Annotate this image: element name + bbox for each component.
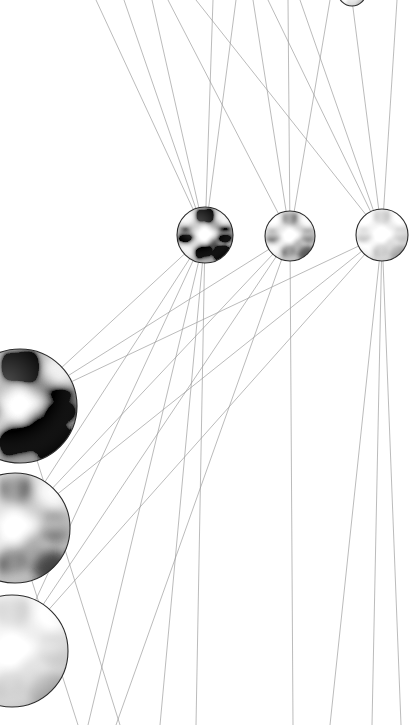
graph-canvas (0, 0, 409, 725)
graph-edge[interactable] (196, 0, 382, 235)
graph-node-small-node-3[interactable] (355, 209, 409, 261)
node-sphere-shading (0, 473, 70, 583)
graph-edge[interactable] (352, 0, 382, 235)
graph-edge[interactable] (116, 236, 290, 725)
node-sphere-shading (0, 349, 77, 463)
graph-edge[interactable] (382, 235, 401, 725)
node-sphere-shading (338, 0, 366, 6)
graph-node-large-node-3[interactable] (0, 595, 69, 707)
graph-node-large-node-1[interactable] (0, 349, 78, 463)
node-sphere-shading (0, 595, 68, 707)
graph-edge[interactable] (196, 235, 205, 725)
graph-node-large-node-2[interactable] (0, 473, 71, 583)
graph-edge[interactable] (205, 0, 236, 235)
graph-edge[interactable] (160, 235, 205, 725)
graph-edge[interactable] (372, 235, 382, 725)
graph-node-faint-node-top[interactable] (337, 0, 366, 6)
graph-edge[interactable] (124, 0, 205, 235)
graph-edge[interactable] (268, 0, 382, 235)
graph-edge[interactable] (152, 0, 205, 235)
nodes-layer (0, 0, 409, 707)
graph-edge[interactable] (382, 0, 397, 235)
graph-edge[interactable] (330, 235, 382, 725)
graph-node-small-node-1[interactable] (176, 207, 234, 263)
graph-edge[interactable] (300, 0, 382, 235)
graph-edge[interactable] (88, 235, 205, 725)
graph-edge[interactable] (205, 0, 213, 235)
graph-edge[interactable] (12, 235, 382, 651)
graph-node-small-node-2[interactable] (264, 211, 316, 261)
node-graph-svg (0, 0, 409, 725)
graph-edge[interactable] (290, 236, 293, 725)
graph-edge[interactable] (96, 0, 205, 235)
edges-layer (12, 0, 401, 725)
graph-edge[interactable] (290, 0, 330, 236)
